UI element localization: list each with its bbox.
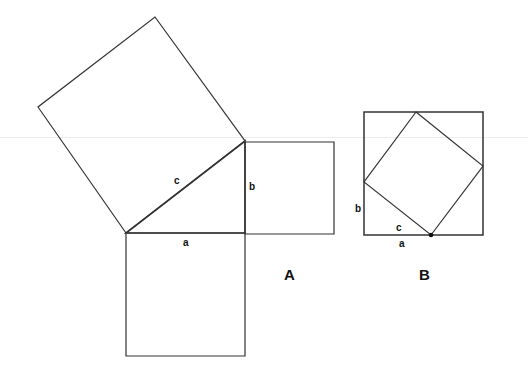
- diagram-canvas: c b a A c b a B: [0, 0, 528, 368]
- panel-a-label-b: b: [249, 181, 255, 192]
- panel-a-square-c: [38, 17, 245, 233]
- panel-b-inner-square: [364, 112, 483, 235]
- panel-b-label-c: c: [396, 222, 402, 233]
- panel-a-label-c: c: [174, 175, 180, 186]
- panel-a-triangle: [126, 141, 245, 233]
- panel-a-title: A: [284, 266, 295, 283]
- diagram-svg: [0, 0, 528, 368]
- panel-a-square-b: [245, 142, 334, 234]
- panel-b-outer-square: [364, 112, 483, 235]
- panel-b-label-b: b: [355, 203, 361, 214]
- panel-b-dot: [429, 233, 434, 238]
- panel-b-label-a: a: [399, 238, 405, 249]
- panel-a-square-a: [126, 233, 245, 356]
- panel-b-title: B: [419, 266, 430, 283]
- panel-a-label-a: a: [183, 237, 189, 248]
